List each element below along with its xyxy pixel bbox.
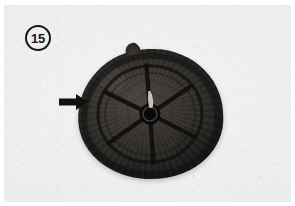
pointer-arrow — [59, 94, 88, 110]
figure-plate: 15 — [0, 0, 295, 206]
figure-number-label: 15 — [31, 32, 45, 45]
right-arrow-icon — [59, 94, 88, 110]
hat-frame — [92, 61, 208, 167]
hat-object — [78, 43, 223, 179]
figure-number-badge: 15 — [25, 25, 51, 51]
photograph-field: 15 — [4, 5, 291, 202]
